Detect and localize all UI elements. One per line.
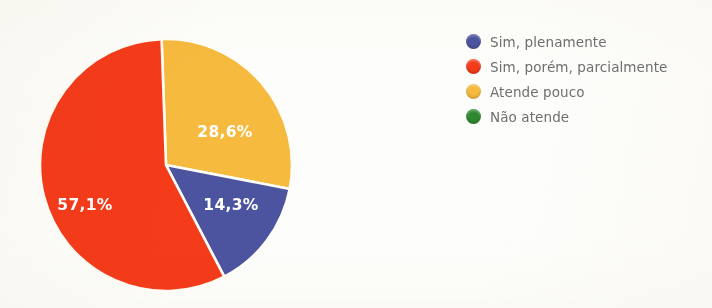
- legend-label-nao-atende: Não atende: [490, 109, 569, 125]
- legend-item-sim-plenamente[interactable]: Sim, plenamente: [466, 29, 696, 54]
- legend-item-sim-porem-parcialmente[interactable]: Sim, porém, parcialmente: [466, 54, 696, 79]
- legend-swatch-green: [466, 109, 481, 124]
- legend-swatch-blue: [466, 34, 481, 49]
- legend-label-sim-porem-parcialmente: Sim, porém, parcialmente: [490, 59, 667, 75]
- pie-label-atende-pouco: 28,6%: [197, 123, 252, 141]
- pie-label-sim-porem-parcialmente: 57,1%: [57, 196, 112, 214]
- legend-swatch-yellow: [466, 84, 481, 99]
- legend-label-sim-plenamente: Sim, plenamente: [490, 34, 607, 50]
- legend-label-atende-pouco: Atende pouco: [490, 84, 585, 100]
- legend-item-nao-atende[interactable]: Não atende: [466, 104, 696, 129]
- chart-legend: Sim, plenamente Sim, porém, parcialmente…: [466, 29, 696, 129]
- pie-label-sim-plenamente: 14,3%: [203, 196, 258, 214]
- pie-chart: 28,6% 57,1% 14,3%: [34, 33, 298, 297]
- legend-swatch-red: [466, 59, 481, 74]
- legend-item-atende-pouco[interactable]: Atende pouco: [466, 79, 696, 104]
- pie-slice-atende-pouco[interactable]: [162, 39, 292, 189]
- pie-svg: 28,6% 57,1% 14,3%: [34, 33, 298, 297]
- chart-page: 28,6% 57,1% 14,3% Sim, plenamente Sim, p…: [0, 0, 712, 308]
